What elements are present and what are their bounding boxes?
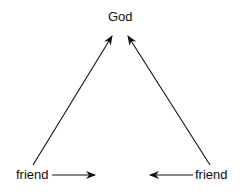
node-friend-right-label: friend bbox=[195, 168, 228, 181]
node-friend-left-label: friend bbox=[16, 168, 49, 181]
node-god-label: God bbox=[108, 10, 133, 23]
arrow-left-to-god bbox=[33, 36, 112, 165]
diagram-canvas bbox=[0, 0, 245, 194]
arrow-right-to-god bbox=[128, 36, 210, 165]
